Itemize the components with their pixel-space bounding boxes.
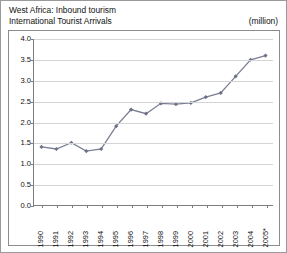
gridline — [34, 60, 273, 61]
plot-area — [33, 39, 273, 206]
plot-wrapper: 0.00.51.01.52.02.53.03.54.0 199019911992… — [9, 31, 279, 245]
chart-page: West Africa: Inbound tourism Internation… — [0, 0, 287, 253]
y-axis-tick — [31, 164, 34, 165]
subtitle-row: International Tourist Arrivals (million) — [9, 16, 278, 27]
x-tick-label: 1996 — [126, 231, 133, 247]
data-point-marker — [204, 95, 208, 99]
gridline — [34, 185, 273, 186]
x-tick-label: 1995 — [111, 231, 118, 247]
y-axis-tick — [31, 185, 34, 186]
x-tick-label: 1998 — [156, 231, 163, 247]
x-tick-label: 2002 — [216, 231, 223, 247]
y-tick-label: 3.5 — [20, 56, 31, 64]
x-tick-label: 2005* — [261, 228, 268, 247]
series-polyline — [41, 56, 265, 151]
y-axis-tick — [31, 81, 34, 82]
gridline — [34, 164, 273, 165]
x-tick-label: 2003 — [231, 231, 238, 247]
y-axis-tick — [31, 60, 34, 61]
x-tick-label: 2000 — [186, 231, 193, 247]
gridline — [34, 102, 273, 103]
y-axis-tick — [31, 123, 34, 124]
y-axis-tick — [31, 39, 34, 40]
x-axis-labels: 1990199119921993199419951996199719981999… — [33, 207, 273, 247]
x-tick-label: 2004 — [246, 231, 253, 247]
data-point-marker — [263, 54, 267, 58]
x-tick-label: 2001 — [201, 231, 208, 247]
x-tick-label: 1991 — [51, 231, 58, 247]
gridline — [34, 81, 273, 82]
y-tick-label: 0.5 — [20, 181, 31, 189]
data-point-marker — [174, 102, 178, 106]
gridline — [34, 39, 273, 40]
unit-label: (million) — [249, 16, 278, 26]
data-point-marker — [39, 145, 43, 149]
x-tick-label: 1992 — [66, 231, 73, 247]
x-tick-label: 1997 — [141, 231, 148, 247]
y-tick-label: 1.0 — [20, 160, 31, 168]
y-axis-tick — [31, 143, 34, 144]
y-tick-label: 0.0 — [20, 202, 31, 210]
y-tick-label: 4.0 — [20, 35, 31, 43]
y-axis-tick — [31, 102, 34, 103]
x-tick-label: 1999 — [171, 231, 178, 247]
gridline — [34, 123, 273, 124]
data-point-marker — [54, 147, 58, 151]
y-tick-label: 1.5 — [20, 140, 31, 148]
y-tick-label: 3.0 — [20, 77, 31, 85]
y-tick-label: 2.5 — [20, 98, 31, 106]
x-tick-label: 1990 — [36, 231, 43, 247]
x-tick-label: 1994 — [96, 231, 103, 247]
y-axis-labels: 0.00.51.01.52.02.53.03.54.0 — [11, 39, 31, 206]
x-tick-label: 1993 — [81, 231, 88, 247]
y-tick-label: 2.0 — [20, 119, 31, 127]
chart-subtitle: International Tourist Arrivals — [9, 16, 112, 27]
page-title: West Africa: Inbound tourism — [9, 5, 278, 16]
chart-header: West Africa: Inbound tourism Internation… — [9, 5, 278, 27]
gridline — [34, 143, 273, 144]
chart-frame: 0.00.51.01.52.02.53.03.54.0 199019911992… — [8, 30, 280, 246]
